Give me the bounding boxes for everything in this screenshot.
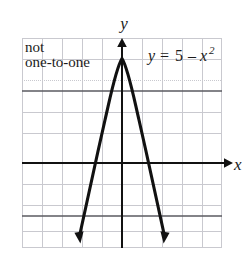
annotation-not-one-to-one-line2: one-to-one (25, 54, 90, 70)
function-graph-figure: y x not one-to-one y = 5 – x 2 (0, 0, 250, 260)
equation-constant: 5 (175, 47, 183, 64)
equation-variable: x (199, 47, 207, 64)
equation-lhs: y (146, 47, 156, 65)
y-axis-label: y (118, 14, 128, 33)
equation-minus: – (187, 47, 197, 64)
equation-exponent: 2 (209, 44, 215, 56)
x-axis-label: x (233, 155, 242, 174)
annotation-not-one-to-one-line1: not (25, 39, 45, 55)
equation-equals: = (160, 47, 169, 64)
